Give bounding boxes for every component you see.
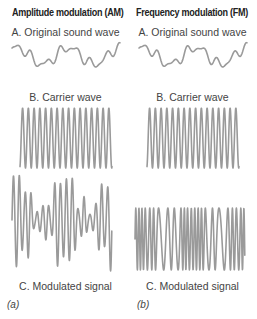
am-title: Amplitude modulation (AM) xyxy=(12,6,123,18)
am-carrier-wave xyxy=(0,104,125,174)
fm-sound-label: A. Original sound wave xyxy=(130,26,255,38)
am-sound-label: A. Original sound wave xyxy=(3,26,128,38)
fm-carrier-wave xyxy=(127,104,252,174)
am-carrier-label: B. Carrier wave xyxy=(3,91,128,103)
fm-panel-label: (b) xyxy=(137,299,149,310)
fm-sound-wave xyxy=(127,40,252,80)
fm-modulated-signal xyxy=(127,203,252,278)
fm-title: Frequency modulation (FM) xyxy=(136,6,248,18)
fm-modulated-label: C. Modulated signal xyxy=(130,280,255,292)
am-modulated-signal xyxy=(0,168,125,273)
am-modulated-label: C. Modulated signal xyxy=(3,280,128,292)
fm-carrier-label: B. Carrier wave xyxy=(130,91,255,103)
am-panel-label: (a) xyxy=(7,299,19,310)
am-sound-wave xyxy=(0,40,125,80)
